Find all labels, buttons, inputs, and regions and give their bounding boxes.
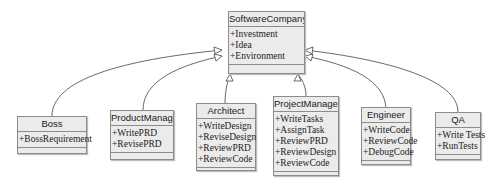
attribute: +WritePRD: [112, 128, 172, 139]
class-operations: [436, 155, 480, 160]
class-qa[interactable]: QA +Write Tests +RunTests: [435, 112, 481, 160]
arrowhead-icon: [214, 54, 222, 61]
attribute: +ReviewCode: [275, 158, 337, 169]
class-operations: [197, 168, 255, 173]
class-attributes: +WriteTasks +AssignTask +ReviewPRD +Revi…: [274, 112, 338, 172]
attribute: +ReviseDesign: [198, 132, 254, 143]
attribute: +ReviewCode: [363, 136, 409, 147]
attribute: +ReviewPRD: [198, 143, 254, 154]
attribute: +ReviewCode: [198, 154, 254, 165]
attribute: +ReviewPRD: [275, 136, 337, 147]
class-attributes: +WriteCode +ReviewCode +DebugCode: [362, 123, 410, 161]
class-name: Boss: [18, 117, 86, 132]
class-engineer[interactable]: Engineer +WriteCode +ReviewCode +DebugCo…: [361, 107, 411, 165]
class-projectmanager[interactable]: ProjectManager +WriteTasks +AssignTask +…: [273, 96, 339, 176]
class-name: ProductManager: [111, 111, 173, 126]
attribute: +AssignTask: [275, 125, 337, 136]
class-operations: [274, 172, 338, 177]
attribute: +Environment: [230, 51, 303, 62]
class-operations: [18, 148, 86, 153]
class-name: Engineer: [362, 108, 410, 123]
arrowhead-icon: [214, 47, 222, 54]
attribute: +WriteTasks: [275, 114, 337, 125]
class-attributes: +WritePRD +RevisePRD: [111, 126, 173, 153]
class-name: QA: [436, 113, 480, 128]
attribute: +BossRequirement: [19, 134, 85, 145]
attribute: +DebugCode: [363, 147, 409, 158]
arrowhead-icon: [305, 47, 313, 54]
attribute: +WriteDesign: [198, 121, 254, 132]
arrowhead-icon: [305, 54, 313, 61]
edge-productmanager-to-softwarecompany: [143, 56, 222, 110]
arrowhead-icon: [226, 74, 233, 81]
attribute: +RevisePRD: [112, 139, 172, 150]
class-productmanager[interactable]: ProductManager +WritePRD +RevisePRD: [110, 110, 174, 160]
class-operations: [362, 161, 410, 166]
class-architect[interactable]: Architect +WriteDesign +ReviseDesign +Re…: [196, 103, 256, 171]
attribute: +WriteCode: [363, 125, 409, 136]
attribute: +Idea: [230, 40, 303, 51]
class-attributes: +WriteDesign +ReviseDesign +ReviewPRD +R…: [197, 119, 255, 168]
uml-class-diagram: SoftwareCompany +Investment +Idea +Envir…: [0, 0, 496, 188]
class-operations: [111, 153, 173, 158]
attribute: +ReviewDesign: [275, 147, 337, 158]
class-operations: [229, 65, 304, 70]
attribute: +Investment: [230, 29, 303, 40]
class-boss[interactable]: Boss +BossRequirement: [17, 116, 87, 154]
class-attributes: +Investment +Idea +Environment: [229, 27, 304, 65]
class-name: ProjectManager: [274, 97, 338, 112]
attribute: +Write Tests: [437, 130, 479, 141]
class-name: SoftwareCompany: [229, 12, 304, 27]
class-name: Architect: [197, 104, 255, 119]
class-softwarecompany[interactable]: SoftwareCompany +Investment +Idea +Envir…: [228, 11, 305, 74]
class-attributes: +BossRequirement: [18, 132, 86, 148]
class-attributes: +Write Tests +RunTests: [436, 128, 480, 155]
attribute: +RunTests: [437, 141, 479, 152]
